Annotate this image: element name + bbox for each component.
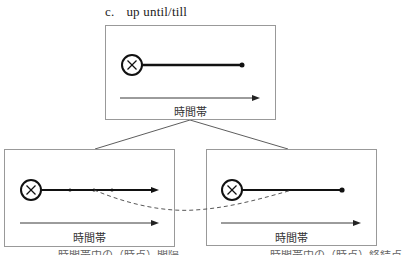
- circled-x-icon: [222, 180, 242, 200]
- axis-label-left: 時間帯: [49, 229, 129, 245]
- caption-right: 時間帯中の（時点）終結点: [270, 250, 402, 255]
- axis-label-top: 時間帯: [150, 103, 230, 119]
- caption-left: 時間帯中の（時点）間隔: [58, 250, 179, 255]
- tick-mark: [110, 188, 113, 191]
- tick-mark: [68, 188, 71, 191]
- connector-left: [95, 120, 190, 149]
- endpoint-dot: [339, 187, 344, 192]
- endpoint-dot: [240, 63, 245, 68]
- circled-x-icon: [21, 180, 41, 200]
- connector-right: [190, 120, 288, 149]
- circled-x-icon: [122, 55, 142, 75]
- axis-label-right: 時間帯: [251, 229, 331, 245]
